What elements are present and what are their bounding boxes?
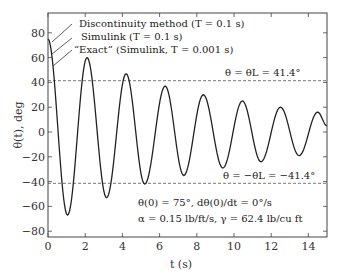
parameters-label: α = 0.15 lb/ft/s, γ = 62.4 lb/cu ft <box>138 213 303 224</box>
legend-leader-3 <box>53 50 72 66</box>
y-tick-label: −60 <box>22 200 45 213</box>
x-tick-label: 12 <box>264 240 278 253</box>
y-tick-label: −80 <box>22 225 45 238</box>
y-tick-label: 20 <box>31 101 45 114</box>
x-tick-label: 14 <box>301 240 315 253</box>
y-tick-label: 40 <box>31 76 45 89</box>
x-tick-label: 2 <box>82 240 89 253</box>
y-tick-label: 0 <box>38 126 45 139</box>
y-tick-label: −40 <box>22 176 45 189</box>
legend-leader-1 <box>52 24 72 42</box>
x-tick-label: 10 <box>227 240 241 253</box>
y-tick-label: −20 <box>22 151 45 164</box>
x-tick-label: 4 <box>119 240 126 253</box>
initial-conditions-label: θ(0) = 75°, dθ(0)/dt = 0°/s <box>138 197 272 208</box>
x-tick-label: 8 <box>193 240 200 253</box>
legend-label-3: “Exact” (Simulink, T = 0.001 s) <box>74 44 233 55</box>
theta-curve <box>48 39 327 215</box>
upper-limit-label: θ = θL = 41.4° <box>225 67 300 78</box>
y-axis-label: θ(t), deg <box>12 101 25 148</box>
lower-limit-label: θ = −θL = −41.4° <box>223 170 315 181</box>
chart: 02468101214−80−60−40−20020406080 Discont… <box>0 0 340 276</box>
y-tick-label: 60 <box>31 52 45 65</box>
x-tick-label: 0 <box>45 240 52 253</box>
legend-leader-2 <box>52 38 72 54</box>
y-tick-label: 80 <box>31 27 45 40</box>
legend-label-1: Discontinuity method (T = 0.1 s) <box>79 18 245 29</box>
legend-label-2: Simulink (T = 0.1 s) <box>81 31 183 42</box>
x-tick-label: 6 <box>156 240 163 253</box>
x-axis-label: t (s) <box>170 258 192 271</box>
